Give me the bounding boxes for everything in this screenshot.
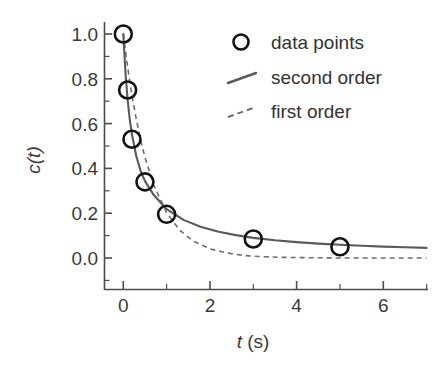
x-tick-label-0: 0	[118, 295, 129, 316]
legend-marker-dashed-line-icon	[228, 107, 256, 117]
x-tick-label-4: 4	[291, 295, 302, 316]
chart-figure: 1.0 0.8 0.6 0.4 0.2 0.0 c(t) 0 2 4	[0, 0, 448, 367]
y-tick-label-0.0: 0.0	[72, 248, 98, 269]
plot-canvas: 1.0 0.8 0.6 0.4 0.2 0.0 c(t) 0 2 4	[0, 0, 448, 367]
y-tick-label-0.4: 0.4	[72, 158, 99, 179]
x-axis: 0 2 4 6 t (s)	[105, 281, 429, 352]
legend-label-data-points: data points	[271, 32, 364, 53]
x-axis-title-unit: (s)	[242, 331, 269, 352]
y-axis: 1.0 0.8 0.6 0.4 0.2 0.0 c(t)	[23, 22, 112, 290]
data-area	[115, 26, 427, 259]
x-tick-label-2: 2	[205, 295, 216, 316]
y-tick-label-0.8: 0.8	[72, 69, 98, 90]
y-tick-label-0.2: 0.2	[72, 203, 98, 224]
x-tick-label-6: 6	[378, 295, 389, 316]
y-tick-label-1.0: 1.0	[72, 24, 98, 45]
legend-label-first-order: first order	[271, 101, 352, 122]
legend-label-second-order: second order	[271, 67, 383, 88]
y-tick-label-0.6: 0.6	[72, 114, 98, 135]
y-axis-title: c(t)	[23, 146, 44, 173]
data-point-marker	[331, 238, 348, 255]
legend: data points second order first order	[228, 32, 383, 122]
legend-marker-open-circle-icon	[234, 35, 249, 50]
x-axis-title: t (s)	[237, 331, 270, 352]
data-point-markers	[115, 26, 349, 256]
legend-marker-solid-line-icon	[228, 73, 256, 83]
